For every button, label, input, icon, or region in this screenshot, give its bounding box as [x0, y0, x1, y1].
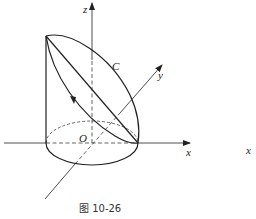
stray-x-label: x: [246, 145, 251, 156]
z-axis-label: z: [83, 4, 87, 15]
figure-caption: 图 10-26: [79, 204, 121, 214]
curve-label: C: [112, 61, 119, 72]
diagram-canvas: [0, 0, 256, 219]
origin-label: O: [79, 133, 87, 144]
direction-arrow-icon: [70, 96, 76, 104]
x-axis-label: x: [186, 147, 191, 158]
y-axis-label: y: [158, 70, 163, 81]
cylinder-base-front: [46, 143, 138, 165]
y-axis-lower: [45, 164, 75, 199]
